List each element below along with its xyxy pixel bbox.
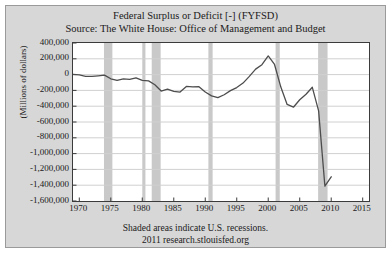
x-tick-label: 2015	[340, 203, 384, 213]
source-note: 2011 research.stlouisfed.org	[0, 234, 391, 246]
y-tick-label: -1,400,000	[9, 180, 69, 189]
y-tick-label: -800,000	[9, 132, 69, 141]
footer-block: Shaded areas indicate U.S. recessions. 2…	[0, 222, 391, 246]
y-tick-label: -400,000	[9, 101, 69, 110]
plot-area	[72, 42, 370, 202]
y-axis-tick-labels: 400,000200,0000-200,000-400,000-600,000-…	[5, 0, 69, 260]
plot-svg	[73, 43, 369, 201]
y-tick-label: -1,000,000	[9, 148, 69, 157]
y-tick-label: -600,000	[9, 117, 69, 126]
y-tick-label: 400,000	[9, 38, 69, 47]
x-axis-tick-labels: 1970197519801985199019952000200520102015	[0, 203, 391, 217]
recession-note: Shaded areas indicate U.S. recessions.	[0, 222, 391, 234]
y-tick-label: -200,000	[9, 85, 69, 94]
chart-figure: Federal Surplus or Deficit [-] (FYFSD) S…	[0, 0, 391, 260]
y-tick-label: 200,000	[9, 53, 69, 62]
y-tick-label: -1,200,000	[9, 164, 69, 173]
y-tick-label: 0	[9, 69, 69, 78]
